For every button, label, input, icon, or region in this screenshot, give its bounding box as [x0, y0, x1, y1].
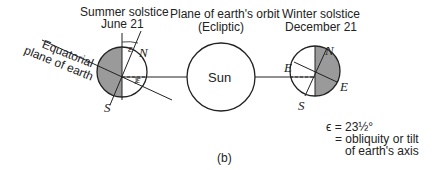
- winter-south-label: S: [298, 98, 305, 114]
- winter-north-label: N: [325, 43, 334, 59]
- summer-north-label: N: [139, 45, 148, 61]
- summer-epsilon-right: ε: [136, 73, 140, 85]
- summer-epsilon-top: ε: [128, 42, 132, 54]
- summer-solstice-date: June 21: [101, 18, 144, 31]
- figure-caption: (b): [217, 152, 232, 165]
- winter-solstice-date: December 21: [285, 21, 357, 34]
- summer-south-label: S: [104, 100, 111, 116]
- legend-line-3: of earth's axis: [345, 145, 419, 158]
- winter-east-left-label: E: [284, 60, 292, 76]
- orbit-subtitle: (Ecliptic): [198, 21, 244, 34]
- sun-label: Sun: [208, 71, 231, 84]
- winter-east-label: E: [340, 79, 348, 95]
